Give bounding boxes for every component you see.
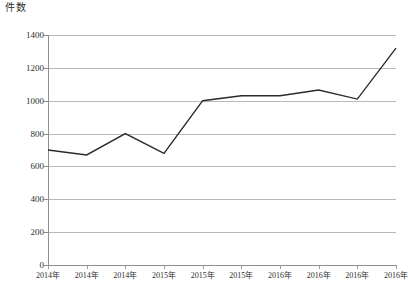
line-chart: 件数 0200400600800100012001400 2014年2014年2… (0, 0, 408, 291)
series-line-path (48, 48, 396, 155)
x-axis-tick-label: 2016年 (307, 271, 331, 281)
x-axis-tick-mark (125, 265, 126, 269)
y-axis-tick-label: 1400 (4, 31, 44, 40)
y-axis-tick-label: 1000 (4, 97, 44, 106)
y-axis-tick-label: 0 (4, 261, 44, 270)
series-line-layer (48, 35, 396, 265)
y-axis-tick-label: 400 (4, 195, 44, 204)
x-axis-tick-mark (357, 265, 358, 269)
x-axis-tick-label: 2016年 (268, 271, 292, 281)
x-axis-tick-label: 2014年 (113, 271, 137, 281)
y-axis-tick-label: 1200 (4, 64, 44, 73)
x-axis-tick-label: 2016年 (345, 271, 369, 281)
x-axis-tick-marks (48, 265, 396, 270)
x-axis-tick-label: 2015年 (229, 271, 253, 281)
x-axis-tick-labels: 2014年2014年2014年2015年2015年2015年2016年2016年… (0, 271, 408, 291)
x-axis-tick-mark (164, 265, 165, 269)
x-axis-tick-label: 2015年 (152, 271, 176, 281)
x-axis-tick-mark (241, 265, 242, 269)
y-axis-tick-labels: 0200400600800100012001400 (0, 35, 44, 265)
x-axis-tick-label: 2016年 (384, 271, 408, 281)
x-axis-tick-mark (203, 265, 204, 269)
y-axis-tick-label: 200 (4, 228, 44, 237)
x-axis-tick-label: 2015年 (191, 271, 215, 281)
x-axis-tick-label: 2014年 (75, 271, 99, 281)
x-axis-tick-mark (396, 265, 397, 269)
x-axis-tick-label: 2014年 (36, 271, 60, 281)
y-axis-tick-label: 800 (4, 130, 44, 139)
x-axis-tick-mark (87, 265, 88, 269)
x-axis-tick-mark (319, 265, 320, 269)
x-axis-tick-mark (280, 265, 281, 269)
x-axis-tick-mark (48, 265, 49, 269)
y-axis-tick-label: 600 (4, 162, 44, 171)
y-axis-unit-label: 件数 (5, 2, 26, 14)
